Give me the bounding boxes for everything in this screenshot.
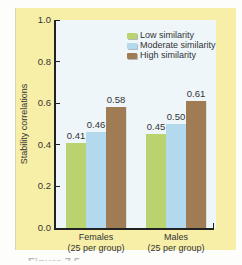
bar-males-moderate	[166, 124, 186, 228]
figure-caption: Figure 7.5	[28, 256, 80, 265]
category-label-males: Males (25 per group)	[136, 232, 216, 254]
category-name: Females	[56, 232, 136, 243]
legend-swatch-moderate	[127, 43, 137, 49]
legend-item-moderate: Moderate similarity	[127, 40, 216, 50]
legend-swatch-high	[127, 53, 137, 59]
legend-item-low: Low similarity	[127, 30, 216, 40]
y-axis-line	[54, 20, 56, 229]
x-axis-end-tick	[213, 223, 214, 229]
bar-value-label: 0.58	[101, 94, 131, 105]
y-axis-label: Stability correlations	[19, 84, 29, 165]
legend-label-high: High similarity	[140, 50, 196, 60]
y-tick-label: 0.4	[29, 139, 51, 150]
legend-item-high: High similarity	[127, 50, 216, 60]
y-tick-label: 0.8	[29, 56, 51, 67]
category-label-females: Females (25 per group)	[56, 232, 136, 254]
y-tick-label: 0.6	[29, 97, 51, 108]
category-sublabel: (25 per group)	[136, 243, 216, 254]
legend-label-low: Low similarity	[140, 30, 194, 40]
x-axis-line	[54, 228, 214, 230]
category-sublabel: (25 per group)	[56, 243, 136, 254]
bar-females-low	[66, 143, 86, 228]
y-tick-label: 1.0	[29, 14, 51, 25]
legend: Low similarity Moderate similarity High …	[127, 30, 216, 60]
legend-swatch-low	[127, 33, 137, 39]
y-tick-label: 0.2	[29, 180, 51, 191]
y-tick-label: 0.0	[29, 222, 51, 233]
bar-value-label: 0.61	[181, 88, 211, 99]
bar-females-moderate	[86, 132, 106, 228]
bar-males-low	[146, 134, 166, 228]
bar-males-high	[186, 101, 206, 228]
legend-label-moderate: Moderate similarity	[140, 40, 216, 50]
category-name: Males	[136, 232, 216, 243]
bar-females-high	[106, 107, 126, 228]
